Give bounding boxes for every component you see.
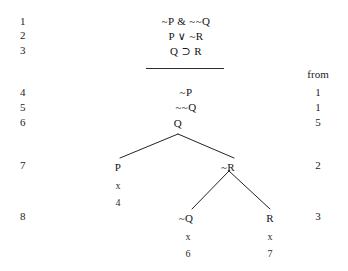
line-number-2: 2 xyxy=(20,30,26,41)
closure-line-r: 7 xyxy=(268,248,273,259)
closure-line-not-q: 6 xyxy=(186,248,191,259)
line-number-3: 3 xyxy=(20,45,26,56)
line-number-8: 8 xyxy=(20,211,26,222)
branch-line-not-r-to-r xyxy=(229,171,270,209)
premise-formula-2: P ∨ ~R xyxy=(169,31,204,42)
branch-line-q-to-p xyxy=(120,134,178,158)
derived-formula-4: ~P xyxy=(180,87,193,98)
branch-line-not-r-to-not-q xyxy=(192,171,229,209)
closure-mark-p: x xyxy=(116,180,121,191)
premise-formula-1: ~P & ~~Q xyxy=(162,16,211,27)
from-ref-line-8: 3 xyxy=(315,211,321,222)
line-number-5: 5 xyxy=(20,102,26,113)
line-number-1: 1 xyxy=(20,16,26,27)
from-column-header: from xyxy=(307,69,328,80)
closure-mark-not-q: x xyxy=(186,231,191,242)
from-ref-line-6: 5 xyxy=(315,117,321,128)
from-ref-line-5: 1 xyxy=(315,102,321,113)
tree-node-not-q: ~Q xyxy=(179,213,194,224)
derived-formula-6: Q xyxy=(174,118,182,129)
derived-formula-5: ~~Q xyxy=(175,102,196,113)
line-number-4: 4 xyxy=(20,87,26,98)
tree-node-r: R xyxy=(266,213,274,224)
truth-tree-proof-sheet: 1 2 3 4 5 6 7 8 ~P & ~~Q P ∨ ~R Q ⊃ R ~P… xyxy=(0,0,348,271)
from-ref-line-7: 2 xyxy=(315,160,321,171)
line-number-6: 6 xyxy=(20,117,26,128)
branch-line-q-to-not-r xyxy=(178,134,234,158)
line-number-7: 7 xyxy=(20,160,26,171)
tree-node-not-r: ~R xyxy=(221,162,235,173)
premise-formula-3: Q ⊃ R xyxy=(170,46,202,57)
premise-divider xyxy=(146,68,224,69)
tree-node-p: P xyxy=(115,162,121,173)
closure-line-p: 4 xyxy=(116,197,121,208)
from-ref-line-4: 1 xyxy=(315,87,321,98)
closure-mark-r: x xyxy=(268,231,273,242)
